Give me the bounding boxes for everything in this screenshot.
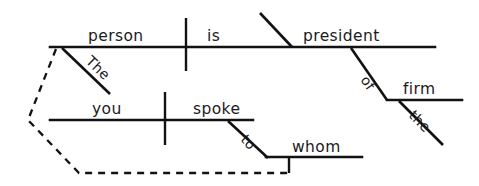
label-verb: is [207,27,220,45]
label-subject: person [88,27,144,45]
label-object-of-preposition: firm [403,80,436,98]
label-predicate-nominative: president [303,27,380,45]
label-relative-pronoun: whom [292,138,341,156]
label-relative-subject: you [92,100,122,118]
label-article-the-subject: The [82,52,113,83]
label-relative-verb: spoke [193,100,240,118]
sentence-diagram-svg: person is president The of firm the you … [0,0,479,186]
predicate-nominative-divider [260,13,292,47]
sentence-diagram-canvas: person is president The of firm the you … [0,0,479,186]
label-preposition-of: of [358,73,380,94]
relative-clause-dashed-link [28,49,289,173]
